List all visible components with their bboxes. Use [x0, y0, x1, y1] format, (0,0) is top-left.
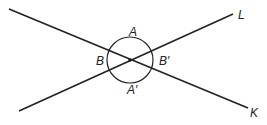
- label-angle-b-prime: B′: [159, 54, 170, 68]
- intersection-point: [128, 58, 132, 62]
- label-line-l: L: [238, 8, 245, 22]
- label-angle-a-prime: A′: [126, 83, 138, 97]
- label-line-k: K: [250, 106, 259, 120]
- line-l: [19, 14, 233, 111]
- label-angle-a: A: [128, 25, 137, 39]
- angle-diagram: A A′ B B′ L K: [0, 0, 267, 125]
- label-angle-b: B: [96, 54, 104, 68]
